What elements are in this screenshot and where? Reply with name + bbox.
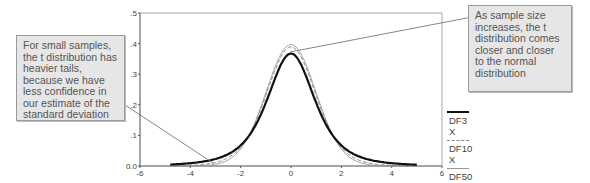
annotation-converges-normal-text: As sample size increases, the t distribu…	[475, 9, 560, 79]
legend-swatch-df3	[447, 111, 469, 113]
y-tick-label: .3	[130, 70, 137, 79]
legend-sub-df50: X	[449, 182, 472, 183]
legend-label-df50: DF50	[449, 171, 472, 182]
y-tick-label: .4	[130, 40, 137, 49]
legend-item-df3: DF3 X	[445, 111, 472, 137]
y-tick-label: .2	[130, 101, 137, 110]
annotation-converges-normal: As sample size increases, the t distribu…	[468, 5, 572, 92]
curve-df50	[170, 45, 417, 167]
legend-label-df3: DF3	[449, 115, 472, 126]
x-tick-label: -6	[136, 169, 144, 178]
legend-swatch-df50	[447, 168, 469, 169]
curve-df3	[170, 54, 417, 165]
y-tick-label: .1	[130, 131, 137, 140]
legend-sub-df10: X	[449, 154, 472, 165]
x-tick-label: -2	[237, 169, 245, 178]
annotation-connectors	[125, 17, 472, 163]
legend: DF3 X DF10 X DF50 X	[445, 97, 472, 183]
axes: 0.0.1.2.3.4.5-6-4-20246	[126, 9, 445, 178]
annotation-heavy-tails-text: For small samples, the t distribution ha…	[23, 39, 117, 120]
legend-item-df50: DF50 X	[445, 168, 472, 183]
y-tick-label: .5	[130, 9, 137, 18]
curves	[170, 45, 417, 167]
x-tick-label: -4	[187, 169, 195, 178]
legend-label-df10: DF10	[449, 143, 472, 154]
x-tick-label: 4	[389, 169, 394, 178]
curve-df10	[170, 47, 417, 166]
x-tick-label: 0	[289, 169, 294, 178]
x-tick-label: 2	[339, 169, 344, 178]
legend-swatch-df10	[447, 140, 469, 141]
annotation-heavy-tails: For small samples, the t distribution ha…	[16, 35, 125, 121]
legend-item-df10: DF10 X	[445, 140, 472, 165]
legend-sub-df3: X	[449, 126, 472, 137]
